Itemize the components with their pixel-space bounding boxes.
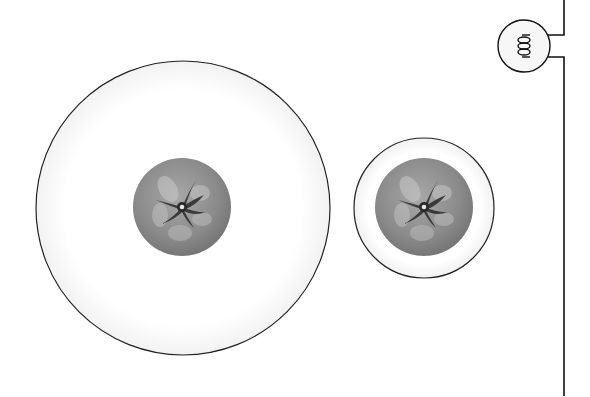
tomato-on-large-plate: [133, 158, 231, 256]
tomato-on-small-plate: [375, 158, 473, 256]
light-bulb-icon: [498, 20, 550, 72]
diagram-canvas: [0, 0, 590, 397]
